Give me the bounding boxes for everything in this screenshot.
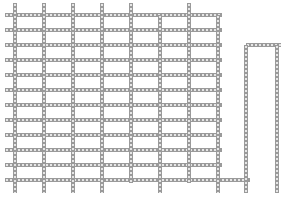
vertical-track: [244, 45, 248, 193]
vertical-track: [100, 3, 104, 193]
vertical-track: [187, 3, 191, 183]
vertical-track: [275, 45, 279, 193]
vertical-track: [129, 3, 133, 183]
track-grid-diagram: [0, 0, 283, 205]
vertical-track: [216, 15, 220, 193]
vertical-track: [158, 15, 162, 193]
vertical-track: [13, 3, 17, 193]
vertical-track: [42, 3, 46, 193]
vertical-track: [71, 3, 75, 193]
